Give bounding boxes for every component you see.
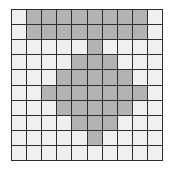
grid-cell-filled xyxy=(88,70,102,84)
grid-cell-empty xyxy=(148,131,162,145)
grid-cell-empty xyxy=(27,116,41,130)
grid-cell-empty xyxy=(12,131,26,145)
grid-cell-empty xyxy=(133,116,147,130)
grid-cell-filled xyxy=(72,55,86,69)
grid-cell-empty xyxy=(57,116,71,130)
grid-cell-empty xyxy=(148,101,162,115)
grid-cell-empty xyxy=(72,40,86,54)
grid-cell-empty xyxy=(42,101,56,115)
grid-cell-empty xyxy=(27,70,41,84)
grid-cell-empty xyxy=(42,55,56,69)
grid-cell-empty xyxy=(148,10,162,24)
grid-cell-filled xyxy=(88,40,102,54)
grid-cell-filled xyxy=(72,70,86,84)
grid-cell-filled xyxy=(72,101,86,115)
grid-cell-filled xyxy=(103,70,117,84)
grid-cell-filled xyxy=(88,131,102,145)
grid-cell-filled xyxy=(27,25,41,39)
grid-cell-filled xyxy=(118,70,132,84)
grid-cell-empty xyxy=(12,70,26,84)
grid-cell-empty xyxy=(88,146,102,160)
grid-cell-empty xyxy=(12,25,26,39)
grid-cell-filled xyxy=(88,86,102,100)
grid-cell-empty xyxy=(27,40,41,54)
grid-cell-empty xyxy=(27,131,41,145)
grid-cell-filled xyxy=(42,25,56,39)
grid-cell-empty xyxy=(57,40,71,54)
grid-cell-empty xyxy=(148,86,162,100)
grid-cell-empty xyxy=(118,40,132,54)
grid-cell-filled xyxy=(57,86,71,100)
grid-cell-empty xyxy=(133,55,147,69)
grid-cell-empty xyxy=(103,146,117,160)
grid-cell-empty xyxy=(42,146,56,160)
grid-cell-filled xyxy=(57,70,71,84)
grid-cell-filled xyxy=(27,10,41,24)
grid-cell-empty xyxy=(118,116,132,130)
grid-cell-filled xyxy=(88,116,102,130)
grid-cell-empty xyxy=(27,101,41,115)
grid-cell-filled xyxy=(57,25,71,39)
grid-cell-empty xyxy=(133,70,147,84)
grid-cell-filled xyxy=(103,55,117,69)
grid-cell-filled xyxy=(72,116,86,130)
grid-cell-empty xyxy=(148,55,162,69)
grid-cell-filled xyxy=(118,25,132,39)
grid-cell-filled xyxy=(133,86,147,100)
shaded-grid xyxy=(11,9,163,161)
grid-cell-empty xyxy=(133,131,147,145)
grid-cell-empty xyxy=(27,146,41,160)
grid-cell-filled xyxy=(42,10,56,24)
grid-cell-filled xyxy=(103,86,117,100)
grid-cell-empty xyxy=(72,146,86,160)
grid-cell-empty xyxy=(148,40,162,54)
grid-cell-filled xyxy=(57,101,71,115)
grid-cell-filled xyxy=(133,10,147,24)
grid-cell-empty xyxy=(103,40,117,54)
grid-cell-empty xyxy=(103,131,117,145)
grid-cell-empty xyxy=(57,131,71,145)
grid-cell-empty xyxy=(133,101,147,115)
grid-cell-filled xyxy=(118,10,132,24)
grid-cell-empty xyxy=(27,86,41,100)
grid-cell-filled xyxy=(88,25,102,39)
grid-cell-empty xyxy=(148,25,162,39)
grid-cell-filled xyxy=(118,101,132,115)
grid-cell-filled xyxy=(103,10,117,24)
grid-cell-empty xyxy=(118,146,132,160)
grid-cell-filled xyxy=(88,101,102,115)
grid-cell-empty xyxy=(118,55,132,69)
grid-cell-empty xyxy=(42,70,56,84)
grid-cell-filled xyxy=(103,101,117,115)
grid-cell-empty xyxy=(12,86,26,100)
grid-cell-empty xyxy=(133,40,147,54)
grid-cell-filled xyxy=(42,86,56,100)
grid-cell-empty xyxy=(57,55,71,69)
grid-cell-empty xyxy=(133,146,147,160)
grid-cell-empty xyxy=(12,116,26,130)
grid-cell-empty xyxy=(12,40,26,54)
grid-cell-filled xyxy=(103,116,117,130)
grid-cell-filled xyxy=(103,25,117,39)
grid-cell-empty xyxy=(148,70,162,84)
grid-cell-empty xyxy=(118,131,132,145)
grid-cell-empty xyxy=(148,146,162,160)
grid-cell-filled xyxy=(72,86,86,100)
grid-cell-empty xyxy=(42,131,56,145)
grid-cell-filled xyxy=(118,86,132,100)
grid-cell-empty xyxy=(72,131,86,145)
grid-cell-empty xyxy=(27,55,41,69)
grid-cell-filled xyxy=(72,25,86,39)
grid-cell-empty xyxy=(12,101,26,115)
grid-cell-empty xyxy=(42,116,56,130)
grid-cell-filled xyxy=(88,10,102,24)
grid-cell-filled xyxy=(133,25,147,39)
grid-cell-filled xyxy=(88,55,102,69)
grid-cell-empty xyxy=(148,116,162,130)
grid-cell-empty xyxy=(12,10,26,24)
grid-cell-filled xyxy=(72,10,86,24)
grid-cell-empty xyxy=(42,40,56,54)
grid-cell-empty xyxy=(57,146,71,160)
grid-cell-empty xyxy=(12,55,26,69)
grid-cell-filled xyxy=(57,10,71,24)
